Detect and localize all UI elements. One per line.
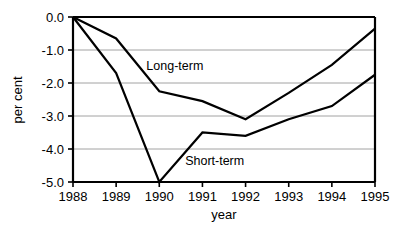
series-label-long-term: Long-term	[146, 59, 203, 73]
y-tick-label: -3.0	[42, 109, 64, 124]
y-tick-label: -5.0	[42, 175, 64, 190]
y-tick-label: -2.0	[42, 76, 64, 91]
series-label-short-term: Short-term	[185, 154, 244, 168]
x-tick-label: 1994	[317, 189, 346, 204]
y-tick-label: 0.0	[46, 10, 64, 25]
line-chart: 0.0-1.0-2.0-3.0-4.0-5.0 1988198919901991…	[0, 0, 408, 234]
chart-figure: 0.0-1.0-2.0-3.0-4.0-5.0 1988198919901991…	[0, 0, 408, 234]
x-tick-label: 1993	[274, 189, 303, 204]
x-tick-label: 1995	[361, 189, 390, 204]
y-tick-label: -4.0	[42, 142, 64, 157]
y-tick-label: -1.0	[42, 43, 64, 58]
x-tick-label: 1991	[188, 189, 217, 204]
x-axis-title: year	[211, 207, 237, 222]
x-tick-label: 1989	[102, 189, 131, 204]
x-tick-label: 1990	[145, 189, 174, 204]
x-tick-label: 1988	[59, 189, 88, 204]
y-axis-title: per cent	[10, 76, 25, 123]
x-tick-label: 1992	[231, 189, 260, 204]
